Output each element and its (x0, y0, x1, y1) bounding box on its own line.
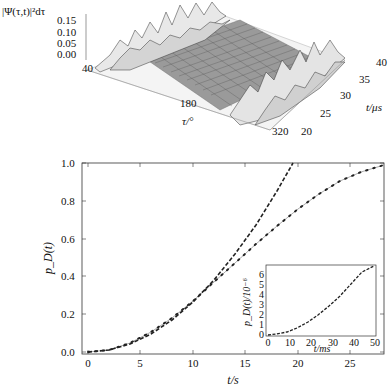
inset-y-tick: 0 (259, 329, 264, 340)
inset-y-tick: 2 (259, 309, 264, 320)
t-axis-label: t/μs (366, 101, 382, 113)
t-tick: 25 (320, 107, 332, 119)
x-tick: 20 (293, 357, 305, 369)
z-tick: 0.15 (57, 14, 77, 26)
inset-y-tick: 1 (259, 319, 264, 330)
figure-canvas: |Ψ(τ,t)|²dτ 0.15 0.10 0.05 0.00 40 180 τ… (0, 0, 389, 390)
x-tick: 15 (240, 357, 252, 369)
x-tick: 10 (188, 357, 200, 369)
y-tick: 0.8 (61, 195, 75, 207)
inset-x-tick: 10 (285, 337, 295, 348)
inset-x-axis-label: t/ms (314, 343, 331, 354)
y-tick: 0.2 (61, 308, 75, 320)
tau-tick: 320 (272, 125, 289, 137)
y-tick: 1.0 (61, 157, 75, 169)
main-x-axis-label: t/s (227, 373, 239, 387)
x-tick: 0 (85, 357, 91, 369)
y-tick: 0.4 (61, 270, 75, 282)
tau-tick: 180 (180, 97, 197, 109)
t-tick: 30 (340, 89, 352, 101)
y-tick: 0.6 (61, 233, 75, 245)
main-x-tick-labels: 0 5 10 15 20 25 (85, 357, 356, 369)
inset-x-tick: 40 (349, 337, 359, 348)
z-tick: 0.00 (57, 48, 77, 60)
x-tick: 25 (345, 357, 357, 369)
inset-x-tick: 50 (370, 337, 380, 348)
t-tick: 35 (359, 73, 371, 85)
inset-plot: 0 10 20 30 40 50 t/ms 0 1 2 3 4 5 6 p_D(… (241, 265, 380, 354)
t-tick: 20 (301, 125, 313, 137)
y-tick: 0.0 (61, 346, 75, 358)
main-y-axis-label: p_D(t) (41, 242, 55, 275)
t-tick: 40 (376, 56, 388, 68)
x-tick: 5 (137, 357, 143, 369)
inset-frame (266, 265, 376, 336)
inset-y-tick: 5 (259, 279, 264, 290)
main-y-tick-labels: 0.0 0.2 0.4 0.6 0.8 1.0 (61, 157, 75, 358)
inset-y-tick-labels: 0 1 2 3 4 5 6 (259, 269, 264, 340)
inset-y-axis-label: p_D(t)/10⁻⁶ (241, 277, 253, 327)
tau-axis-label: τ/° (182, 115, 194, 127)
surface-plot: |Ψ(τ,t)|²dτ 0.15 0.10 0.05 0.00 40 180 τ… (2, 2, 388, 137)
inset-y-tick: 3 (259, 299, 264, 310)
tau-tick: 40 (82, 62, 94, 74)
z-axis-label: |Ψ(τ,t)|²dτ (2, 5, 46, 18)
inset-x-tick: 0 (266, 337, 271, 348)
inset-y-tick: 6 (259, 269, 264, 280)
inset-y-tick: 4 (259, 289, 264, 300)
